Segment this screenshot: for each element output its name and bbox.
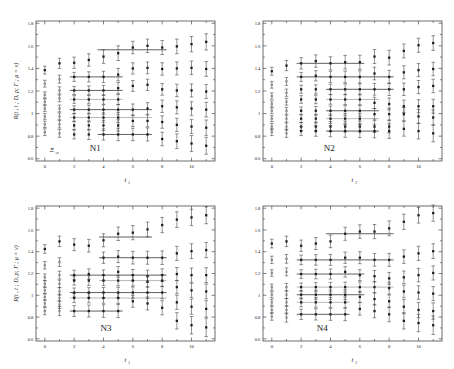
data-marker	[329, 273, 331, 275]
data-point	[358, 252, 362, 264]
data-point	[160, 63, 164, 75]
y-tick-label: 1.8	[255, 21, 261, 26]
data-point	[43, 66, 47, 74]
data-marker	[44, 289, 46, 291]
x-tick-label: 10	[189, 164, 194, 169]
data-marker	[432, 292, 434, 294]
data-point	[204, 284, 208, 299]
data-marker	[146, 120, 148, 122]
data-marker	[359, 88, 361, 90]
data-point	[204, 120, 208, 135]
data-marker	[271, 286, 273, 288]
data-point	[285, 77, 289, 85]
four-panel-scatter-figure: 02468100.60.811.21.41.61.8N1Ξcct1R(t , t…	[0, 0, 454, 369]
data-marker	[300, 88, 302, 90]
data-point	[285, 236, 289, 246]
data-point	[285, 98, 289, 105]
data-point	[285, 313, 289, 322]
data-marker	[359, 274, 361, 276]
data-marker	[205, 145, 207, 147]
data-marker	[117, 133, 119, 135]
data-marker	[176, 89, 178, 91]
data-point	[72, 121, 76, 129]
data-point	[285, 291, 289, 298]
figure-canvas: 02468100.60.811.21.41.61.8N1Ξcct1R(t , t…	[0, 0, 454, 369]
data-point	[373, 304, 377, 318]
data-marker	[432, 116, 434, 118]
data-marker	[403, 221, 405, 223]
data-marker	[146, 133, 148, 135]
data-marker	[432, 68, 434, 70]
data-point	[417, 246, 421, 260]
data-marker	[117, 279, 119, 281]
data-point	[343, 267, 347, 277]
data-point	[417, 314, 421, 331]
data-marker	[271, 294, 273, 296]
panel-n1: 02468100.60.811.21.41.61.8N1Ξcct1R(t , t…	[13, 21, 215, 185]
data-marker	[388, 287, 390, 289]
data-marker	[176, 273, 178, 275]
data-marker	[102, 55, 104, 57]
data-marker	[329, 313, 331, 315]
data-marker	[315, 242, 317, 244]
data-marker	[373, 230, 375, 232]
data-marker	[329, 118, 331, 120]
data-marker	[403, 88, 405, 90]
data-point	[431, 244, 435, 259]
y-tick-label: 0.6	[255, 337, 261, 342]
data-marker	[176, 286, 178, 288]
x-axis-title: t	[352, 176, 354, 183]
data-marker	[359, 98, 361, 100]
data-point	[431, 266, 435, 280]
data-marker	[315, 273, 317, 275]
data-point	[190, 120, 194, 134]
data-marker	[373, 130, 375, 132]
data-point	[417, 38, 421, 52]
x-tick-label: 2	[300, 344, 303, 349]
y-tick-label: 1.4	[255, 249, 261, 254]
data-marker	[285, 286, 287, 288]
data-marker	[176, 301, 178, 303]
data-marker	[344, 301, 346, 303]
data-point	[87, 121, 91, 130]
data-marker	[132, 279, 134, 281]
data-point	[417, 207, 421, 223]
data-point	[358, 225, 362, 239]
data-marker	[102, 239, 104, 241]
data-marker	[403, 306, 405, 308]
data-marker	[285, 309, 287, 311]
data-marker	[161, 105, 163, 107]
y-tick-label: 1.8	[28, 206, 34, 211]
data-point	[175, 212, 179, 228]
y-tick-label: 0.8	[255, 315, 261, 320]
data-point	[285, 268, 289, 276]
panel-label-n4: N4	[317, 323, 328, 333]
data-point	[314, 55, 318, 67]
data-marker	[344, 286, 346, 288]
data-marker	[388, 130, 390, 132]
data-marker	[315, 286, 317, 288]
data-point	[431, 205, 435, 221]
data-marker	[271, 315, 273, 317]
data-marker	[102, 133, 104, 135]
data-point	[402, 300, 406, 314]
data-marker	[88, 98, 90, 100]
xi-cc-annotation: Ξcc	[50, 147, 59, 155]
data-marker	[271, 301, 273, 303]
data-point	[175, 84, 179, 96]
data-marker	[417, 130, 419, 132]
data-marker	[417, 69, 419, 71]
data-point	[43, 129, 47, 136]
data-point	[146, 103, 150, 115]
data-marker	[300, 118, 302, 120]
data-point	[402, 121, 406, 136]
data-point	[402, 44, 406, 58]
y-tick-label: 1.2	[28, 89, 34, 94]
y-tick-label: 1.6	[255, 44, 261, 49]
data-point	[175, 281, 179, 294]
x-tick-label: 6	[359, 344, 362, 349]
data-point	[270, 239, 274, 248]
data-point	[175, 101, 179, 114]
data-point	[43, 245, 47, 254]
data-point	[43, 281, 47, 287]
